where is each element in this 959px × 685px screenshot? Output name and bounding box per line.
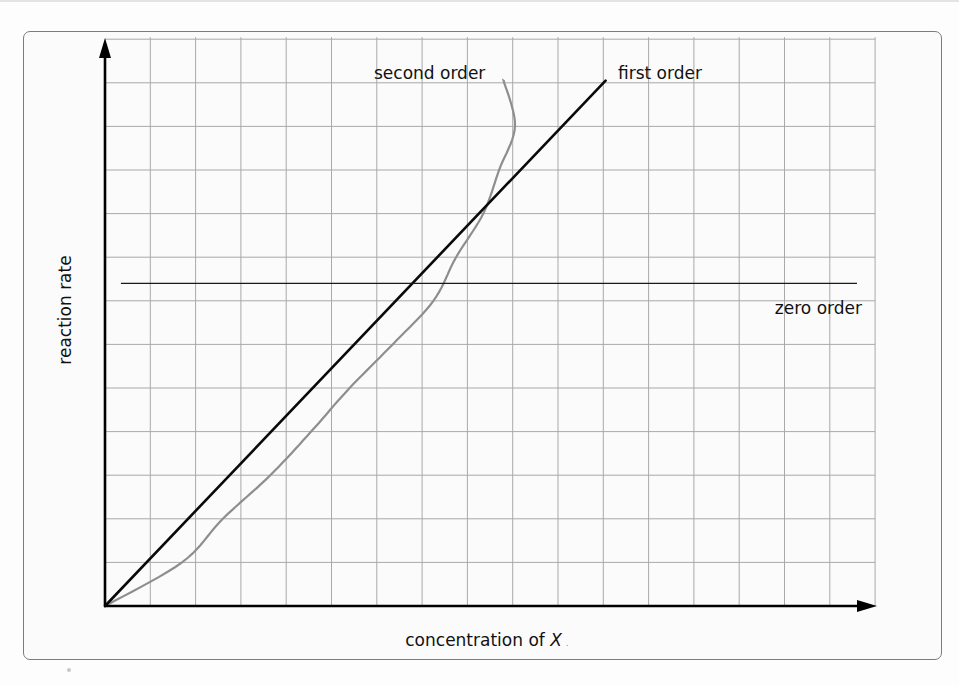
second-order-curve	[105, 81, 515, 606]
y-axis-label: reaction rate	[55, 255, 75, 364]
chart-svg: second order first order zero order reac…	[0, 0, 959, 685]
label-zero-order: zero order	[775, 298, 862, 318]
x-axis-label-var: X	[549, 630, 562, 650]
label-first-order: first order	[618, 63, 702, 83]
x-axis-label: concentration of X.	[405, 630, 568, 650]
x-axis-arrow-icon	[857, 600, 877, 612]
first-order-line	[105, 81, 606, 606]
x-axis-label-prefix: concentration of	[405, 630, 550, 650]
label-second-order: second order	[374, 63, 485, 83]
y-axis-arrow-icon	[99, 38, 111, 58]
x-axis-label-suffix: .	[566, 638, 569, 648]
